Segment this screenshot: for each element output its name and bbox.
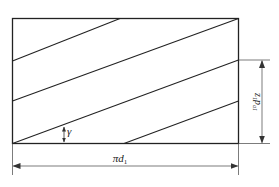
helix-line-4 [124, 101, 239, 144]
helix-development-diagram: γ z1pa1 πd1 [0, 0, 279, 187]
development-rectangle [13, 19, 239, 144]
helix-line-2 [13, 19, 239, 102]
helix-line-3 [13, 60, 239, 144]
helix-lines [13, 19, 239, 144]
width-label: πd1 [113, 152, 128, 166]
angle-label: γ [67, 125, 72, 137]
helix-line-1 [13, 19, 121, 62]
